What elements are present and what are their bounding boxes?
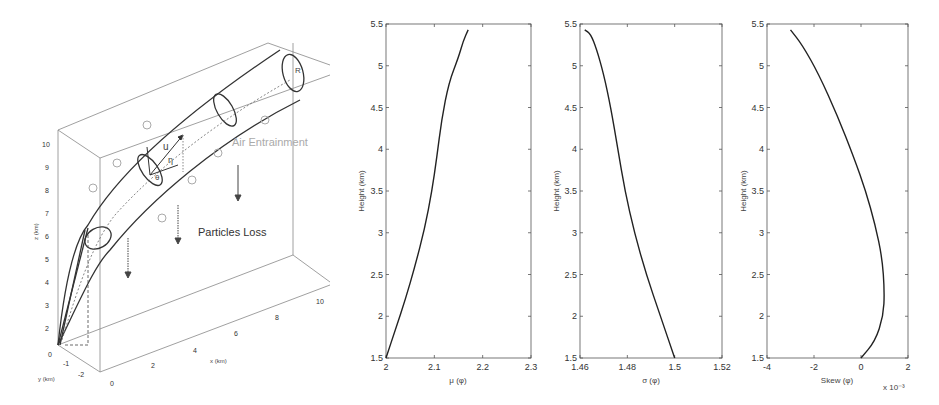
svg-text:4: 4 <box>193 347 197 354</box>
swirl-icon <box>158 214 166 222</box>
y-tick-label: 5.5 <box>370 19 383 29</box>
y-tick-label: 2 <box>378 311 383 321</box>
svg-text:0: 0 <box>110 380 114 387</box>
y-tick-label: 4.5 <box>751 103 764 113</box>
figure-canvas: u η θ R Air Entrainment Particles Loss 1… <box>0 0 939 405</box>
y-tick-label: 4 <box>378 144 383 154</box>
y-tick-label: 3 <box>572 228 577 238</box>
y-tick-label: 2.5 <box>564 270 577 280</box>
box-front-edges <box>58 130 100 372</box>
svg-text:8: 8 <box>275 314 279 321</box>
y-tick-label: 3.5 <box>751 186 764 196</box>
svg-text:2: 2 <box>151 362 155 369</box>
x-ticks: 1.461.481.51.52 <box>571 24 731 372</box>
eta-label: η <box>168 155 173 165</box>
y-tick-label: 3.5 <box>564 186 577 196</box>
arrow-down-icon <box>125 272 131 278</box>
x-tick-label: 1.48 <box>619 362 637 372</box>
svg-text:10: 10 <box>316 298 324 305</box>
y-ticks: 1.522.533.544.555.5 <box>370 19 531 363</box>
x-axis-label: μ (φ) <box>449 376 467 385</box>
x-tick-label: 2.3 <box>525 362 538 372</box>
x-tick-label: 2.2 <box>476 362 489 372</box>
swirl-icon <box>188 176 196 184</box>
arrow-down-icon <box>175 238 181 244</box>
x-tick-label: 1.5 <box>668 362 681 372</box>
arrow-down-icon <box>235 195 241 201</box>
x-tick-label: 0 <box>858 362 863 372</box>
box-floor-right <box>293 255 330 282</box>
svg-text:2: 2 <box>45 325 49 332</box>
svg-text:6: 6 <box>234 330 238 337</box>
svg-text:4: 4 <box>45 279 49 286</box>
y-tick-label: 5 <box>759 61 764 71</box>
y-tick-label: 2 <box>572 311 577 321</box>
y-tick-label: 2.5 <box>751 270 764 280</box>
x-tick-label: 1.46 <box>571 362 589 372</box>
y-ticks: 1.522.533.544.555.5 <box>751 19 908 363</box>
svg-text:8: 8 <box>45 187 49 194</box>
svg-text:3: 3 <box>45 302 49 309</box>
u-label: u <box>163 141 169 152</box>
box-floor-left <box>58 345 100 372</box>
y-tick-label: 3 <box>759 228 764 238</box>
y-tick-label: 2 <box>759 311 764 321</box>
x-tick-label: 2 <box>383 362 388 372</box>
y-tick-label: 4 <box>759 144 764 154</box>
x-ticks: -4-202 <box>763 24 911 372</box>
svg-text:0: 0 <box>48 351 52 358</box>
x-multiplier-label: x 10⁻³ <box>883 383 905 392</box>
svg-text:5: 5 <box>45 256 49 263</box>
chart-sigma: 1.522.533.544.555.5 1.461.481.51.52 σ (φ… <box>552 19 731 385</box>
particle-loss-arrows <box>125 165 241 278</box>
y-axis-label: Height (km) <box>357 170 366 212</box>
x-tick-label: -4 <box>763 362 771 372</box>
y-tick-label: 5 <box>572 61 577 71</box>
x-axis-label: Skew (φ) <box>821 376 854 385</box>
y-tick-label: 5.5 <box>751 19 764 29</box>
swirl-icons <box>89 116 269 222</box>
chart-skew: 1.522.533.544.555.5 -4-202 Skew (φ) x 10… <box>739 19 911 392</box>
y-tick-label: 5 <box>378 61 383 71</box>
swirl-icon <box>143 121 151 129</box>
plume-centerline <box>62 80 290 340</box>
svg-text:10: 10 <box>42 141 50 148</box>
air-entrainment-label: Air Entrainment <box>232 136 308 148</box>
x-tick-label: -2 <box>810 362 818 372</box>
y-tick-label: 4.5 <box>564 103 577 113</box>
plume-tube <box>58 50 308 345</box>
particles-loss-label: Particles Loss <box>198 226 267 238</box>
data-line <box>585 30 675 358</box>
svg-text:9: 9 <box>45 164 49 171</box>
swirl-icon <box>89 184 97 192</box>
swirl-icon <box>113 159 121 167</box>
y-tick: -1 <box>63 360 69 367</box>
y-tick-label: 3 <box>378 228 383 238</box>
y-axis-label: y (km) <box>38 376 55 382</box>
y-tick-label: 3.5 <box>370 186 383 196</box>
theta-label: θ <box>155 173 160 182</box>
y-ticks: 1.522.533.544.555.5 <box>564 19 722 363</box>
y-tick-label: 1.5 <box>370 353 383 363</box>
y-tick: -2 <box>78 371 84 378</box>
z-axis: 10 9 8 7 6 5 4 3 2 0 <box>42 141 52 358</box>
y-tick-label: 4.5 <box>370 103 383 113</box>
chart-mu: 1.522.533.544.555.5 22.12.22.3 μ (φ) Hei… <box>357 19 537 385</box>
y-tick-label: 5.5 <box>564 19 577 29</box>
x-ticks: 22.12.22.3 <box>383 24 537 372</box>
y-axis-label: Height (km) <box>552 170 561 212</box>
x-tick-label: 2 <box>905 362 910 372</box>
radius-label: R <box>295 66 301 75</box>
x-axis-label: x (km) <box>210 358 227 364</box>
data-line <box>791 30 885 358</box>
x-axis-label: σ (φ) <box>642 376 660 385</box>
x-tick-label: 2.1 <box>428 362 441 372</box>
z-axis-label: z (km) <box>33 223 39 240</box>
data-line <box>386 30 468 358</box>
svg-text:6: 6 <box>45 233 49 240</box>
x-axis: 0 2 4 6 8 10 <box>110 298 324 387</box>
y-tick-label: 4 <box>572 144 577 154</box>
x-tick-label: 1.52 <box>713 362 731 372</box>
svg-text:7: 7 <box>45 210 49 217</box>
y-tick-label: 2.5 <box>370 270 383 280</box>
